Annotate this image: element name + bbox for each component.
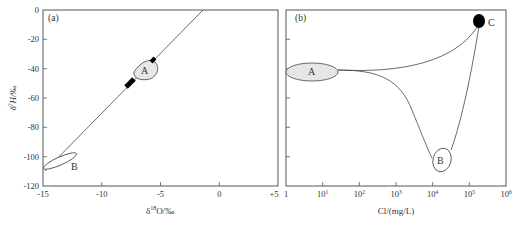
region-a-label: A <box>308 66 316 77</box>
region-c-dot <box>473 14 485 28</box>
x-tick-label: -10 <box>96 189 107 199</box>
x-tick-label: 102 <box>354 189 366 199</box>
panel-a-y-tick-labels: 0 -20 -40 -60 -80 -100 -120 <box>23 5 39 191</box>
panel-b-x-tick-labels: 1 101 102 103 104 105 106 <box>284 189 512 199</box>
marker-bar-lower <box>126 79 134 87</box>
panel-b: 1 101 102 103 104 105 106 Cl/(mg/L) (b) … <box>284 10 512 216</box>
panel-b-y-ticks <box>286 39 290 156</box>
x-tick-label: 103 <box>390 189 402 199</box>
x-tick-label: -5 <box>157 189 164 199</box>
x-tick-label: -15 <box>37 189 48 199</box>
panel-b-label: (b) <box>295 13 306 24</box>
panel-a-y-axis-title: δ2H/‰ <box>7 85 18 110</box>
panel-a-label: (a) <box>48 13 59 24</box>
region-b-label: B <box>71 161 78 172</box>
x-tick-label: 104 <box>427 189 439 199</box>
x-tick-label: 1 <box>284 189 288 199</box>
x-tick-label: 101 <box>317 189 329 199</box>
panel-a-x-axis-title: δ18O/‰ <box>146 205 174 216</box>
curve-a-to-c <box>338 26 478 71</box>
x-tick-label: 0 <box>217 189 221 199</box>
water-line <box>45 10 203 171</box>
y-tick-label: -20 <box>28 34 39 44</box>
y-tick-label: -100 <box>23 152 39 162</box>
panel-a: 0 -20 -40 -60 -80 -100 -120 -15 -10 -5 0… <box>7 5 279 216</box>
panel-a-x-tick-labels: -15 -10 -5 0 +5 <box>37 189 278 199</box>
panel-a-y-ticks <box>43 39 47 156</box>
x-tick-label: 105 <box>464 189 476 199</box>
x-tick-label: 106 <box>500 189 512 199</box>
panel-a-frame <box>43 10 278 186</box>
region-b-label: B <box>437 155 444 166</box>
y-tick-label: -60 <box>28 93 39 103</box>
region-a-label: A <box>141 65 149 76</box>
panel-b-x-ticks <box>323 182 470 186</box>
figure: 0 -20 -40 -60 -80 -100 -120 -15 -10 -5 0… <box>0 0 518 228</box>
panel-b-x-axis-title: Cl/(mg/L) <box>378 206 415 216</box>
curve-b-to-c <box>451 26 479 150</box>
y-tick-label: -40 <box>28 64 39 74</box>
region-c-label: C <box>488 17 495 28</box>
y-tick-label: 0 <box>35 5 39 15</box>
curve-a-to-b <box>338 70 432 158</box>
y-tick-label: -80 <box>28 122 39 132</box>
marker-bar-upper <box>151 58 155 62</box>
x-tick-label: +5 <box>269 189 278 199</box>
panel-a-x-ticks <box>102 182 220 186</box>
panel-b-frame <box>286 10 506 186</box>
